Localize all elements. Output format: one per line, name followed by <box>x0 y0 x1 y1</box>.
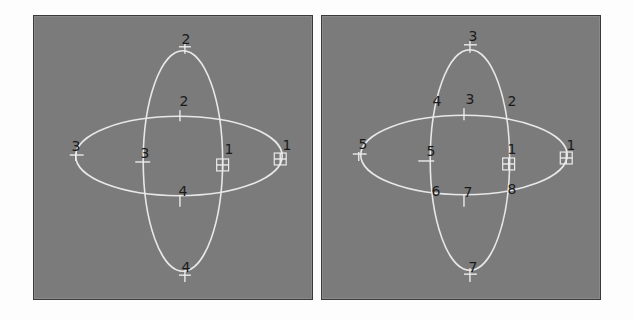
vertex-label: 1 <box>567 138 576 152</box>
vertex-label: 7 <box>464 185 473 199</box>
vertex-label: 5 <box>427 144 436 158</box>
vertex-label: 8 <box>508 182 517 196</box>
viewport-left: 22331144 <box>33 15 313 300</box>
horizontal-ellipse <box>361 115 568 194</box>
vertex-label: 1 <box>508 142 517 156</box>
vertex-label: 3 <box>141 146 150 160</box>
vertex-label: 5 <box>359 137 368 151</box>
vertex-label: 7 <box>469 260 478 274</box>
vertex-label: 3 <box>469 29 478 43</box>
vertical-ellipse <box>143 51 222 271</box>
vertex-label: 4 <box>433 94 442 108</box>
vertex-markers <box>353 41 572 282</box>
curve-diagram-left <box>34 16 312 299</box>
viewport-right: 343255116787 <box>321 15 601 300</box>
vertex-label: 1 <box>225 142 234 156</box>
vertex-label: 3 <box>466 92 475 106</box>
vertex-label: 3 <box>72 139 81 153</box>
vertex-label: 2 <box>180 94 189 108</box>
vertex-label: 2 <box>508 94 517 108</box>
vertex-markers <box>70 43 286 282</box>
vertex-label: 6 <box>432 184 441 198</box>
vertical-ellipse <box>430 50 509 270</box>
vertex-label: 4 <box>182 260 191 274</box>
vertex-label: 4 <box>179 184 188 198</box>
vertex-label: 2 <box>182 32 191 46</box>
vertex-label: 1 <box>283 138 292 152</box>
curve-diagram-right <box>322 16 600 299</box>
